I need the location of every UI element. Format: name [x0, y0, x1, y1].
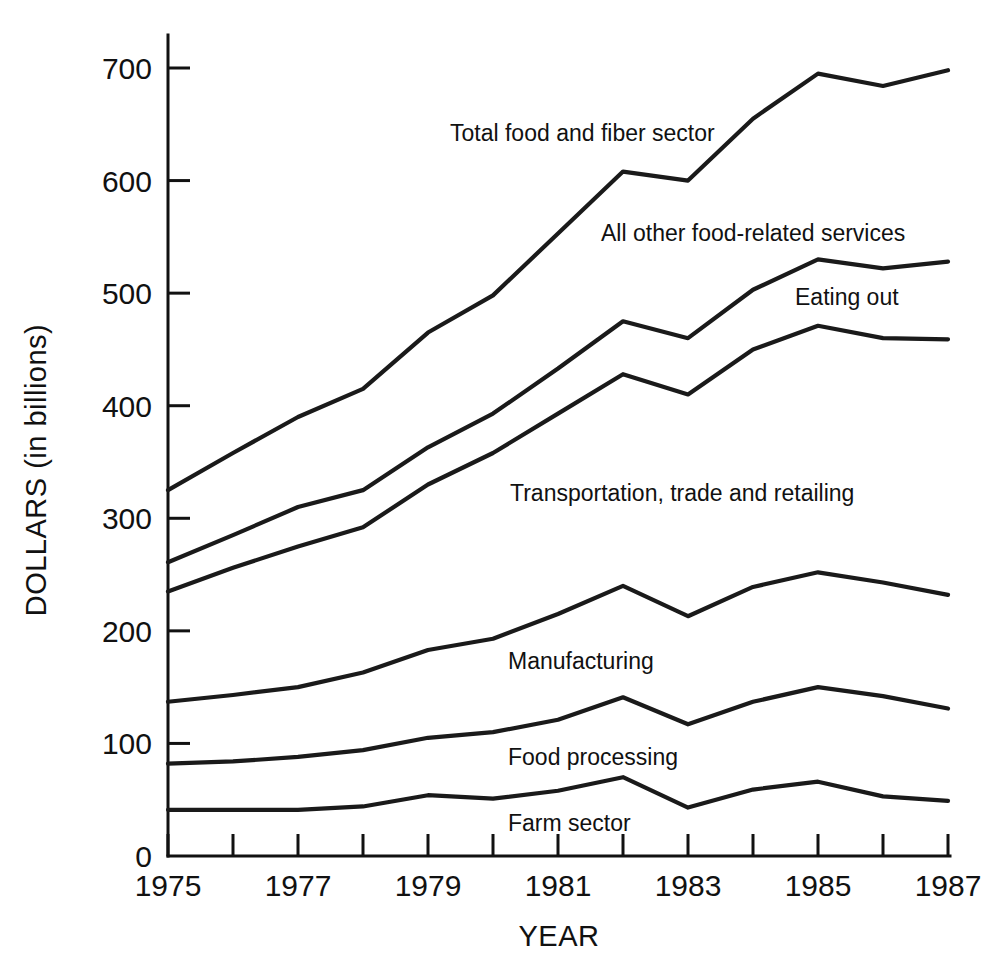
series-label-transportation-trade-and-retailing: Transportation, trade and retailing [510, 480, 854, 506]
y-tick-label-300: 300 [102, 502, 152, 535]
y-tick-label-200: 200 [102, 615, 152, 648]
x-tick-label-1987: 1987 [915, 869, 982, 902]
x-axis-tick-labels: 1975197719791981198319851987 [135, 869, 982, 902]
x-tick-label-1983: 1983 [655, 869, 722, 902]
y-tick-label-500: 500 [102, 277, 152, 310]
chart-canvas: 0100200300400500600700 19751977197919811… [0, 0, 1001, 979]
y-tick-label-400: 400 [102, 390, 152, 423]
line-chart: 0100200300400500600700 19751977197919811… [0, 0, 1001, 979]
series-label-food-processing: Food processing [508, 744, 678, 770]
series-paths-group [168, 70, 948, 810]
x-tick-label-1975: 1975 [135, 869, 202, 902]
y-axis-title: DOLLARS (in billions) [20, 324, 52, 617]
series-label-total-food-and-fiber-sector: Total food and fiber sector [450, 120, 715, 146]
x-tick-label-1981: 1981 [525, 869, 592, 902]
series-label-all-other-food-related-services: All other food-related services [601, 220, 905, 246]
x-axis-title: YEAR [519, 920, 600, 952]
x-tick-label-1979: 1979 [395, 869, 462, 902]
y-axis-tick-labels: 0100200300400500600700 [102, 52, 152, 873]
x-axis-ticks [168, 834, 948, 856]
series-label-manufacturing: Manufacturing [508, 648, 654, 674]
series-eating-out [168, 326, 948, 592]
series-transportation-trade-and-retailing [168, 572, 948, 701]
y-axis-ticks [168, 68, 190, 743]
x-tick-label-1985: 1985 [785, 869, 852, 902]
series-food-processing [168, 777, 948, 810]
series-label-eating-out: Eating out [795, 284, 899, 310]
y-tick-label-100: 100 [102, 727, 152, 760]
series-label-farm-sector: Farm sector [508, 810, 631, 836]
y-tick-label-700: 700 [102, 52, 152, 85]
y-tick-label-600: 600 [102, 165, 152, 198]
x-tick-label-1977: 1977 [265, 869, 332, 902]
